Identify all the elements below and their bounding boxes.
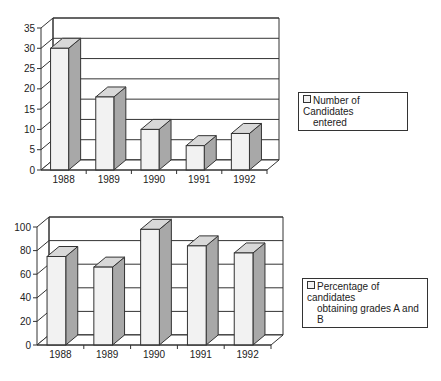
legend-swatch — [303, 95, 311, 103]
svg-text:60: 60 — [20, 269, 32, 280]
svg-text:1988: 1988 — [49, 349, 72, 360]
legend-label: Percentage of candidates — [307, 281, 379, 303]
chart-percentage-ab: 02040608010019881989199019911992 — [0, 200, 300, 381]
svg-text:1991: 1991 — [190, 349, 213, 360]
svg-text:0: 0 — [29, 165, 35, 176]
svg-text:40: 40 — [20, 292, 32, 303]
svg-text:1991: 1991 — [188, 174, 211, 185]
svg-text:1989: 1989 — [98, 174, 121, 185]
svg-text:1992: 1992 — [236, 349, 259, 360]
svg-text:0: 0 — [25, 340, 31, 351]
chart-candidates-entered: 0510152025303519881989199019911992 — [0, 0, 300, 190]
svg-text:5: 5 — [29, 144, 35, 155]
svg-text:25: 25 — [24, 63, 36, 74]
svg-text:1989: 1989 — [96, 349, 119, 360]
svg-text:1992: 1992 — [233, 174, 256, 185]
svg-text:20: 20 — [20, 316, 32, 327]
svg-text:30: 30 — [24, 43, 36, 54]
svg-text:100: 100 — [14, 222, 31, 233]
legend-label: entered — [303, 117, 403, 128]
svg-text:10: 10 — [24, 124, 36, 135]
svg-text:20: 20 — [24, 83, 36, 94]
svg-text:80: 80 — [20, 245, 32, 256]
legend-candidates-entered: Number of Candidates entered — [298, 92, 408, 131]
legend-label: Number of Candidates — [303, 95, 360, 117]
svg-text:1990: 1990 — [143, 349, 166, 360]
legend-swatch — [307, 281, 315, 289]
legend-percentage-ab: Percentage of candidates obtaining grade… — [302, 278, 428, 328]
svg-text:1990: 1990 — [143, 174, 166, 185]
svg-text:35: 35 — [24, 23, 36, 34]
svg-text:15: 15 — [24, 104, 36, 115]
legend-label: obtaining grades A and B — [307, 303, 423, 325]
svg-text:1988: 1988 — [52, 174, 75, 185]
